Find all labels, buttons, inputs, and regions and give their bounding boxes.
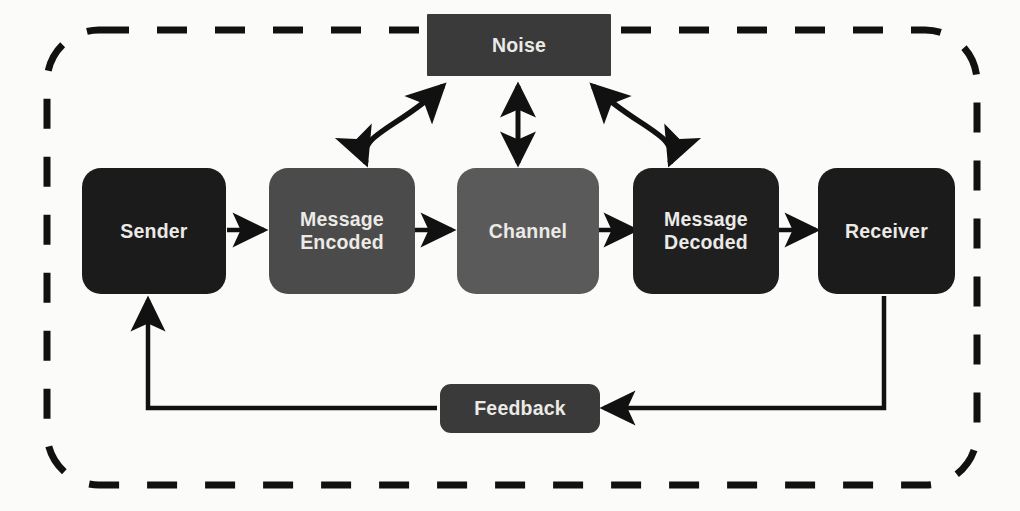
node-sender-label: Sender <box>116 220 191 243</box>
node-receiver[interactable]: Receiver <box>818 168 955 294</box>
arrow-receiver-to-feedback <box>604 296 884 408</box>
node-message-encoded[interactable]: Message Encoded <box>269 168 415 294</box>
arrow-noise-to-message-decoded <box>593 86 672 163</box>
node-noise-label: Noise <box>488 34 550 57</box>
node-feedback[interactable]: Feedback <box>440 384 600 433</box>
communication-model-diagram: Noise Sender Message Encoded Channel Mes… <box>0 0 1020 511</box>
node-channel-label: Channel <box>485 220 571 243</box>
node-receiver-label: Receiver <box>841 220 932 243</box>
node-message-encoded-label: Message Encoded <box>296 208 388 254</box>
arrow-noise-to-message-encoded <box>364 86 443 163</box>
node-feedback-label: Feedback <box>470 397 570 420</box>
node-message-decoded-label: Message Decoded <box>660 208 752 254</box>
arrow-feedback-to-sender <box>148 300 437 408</box>
node-channel[interactable]: Channel <box>457 168 599 294</box>
node-noise[interactable]: Noise <box>427 14 611 76</box>
node-sender[interactable]: Sender <box>82 168 226 294</box>
node-message-decoded[interactable]: Message Decoded <box>633 168 779 294</box>
